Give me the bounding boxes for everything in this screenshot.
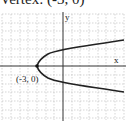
y-axis-label: y bbox=[65, 12, 70, 22]
parabola-chart: y x (-3, 0) bbox=[0, 0, 126, 122]
x-axis-label: x bbox=[114, 55, 119, 65]
vertex-label: (-3, 0) bbox=[16, 74, 39, 84]
vertex-point bbox=[35, 64, 39, 68]
